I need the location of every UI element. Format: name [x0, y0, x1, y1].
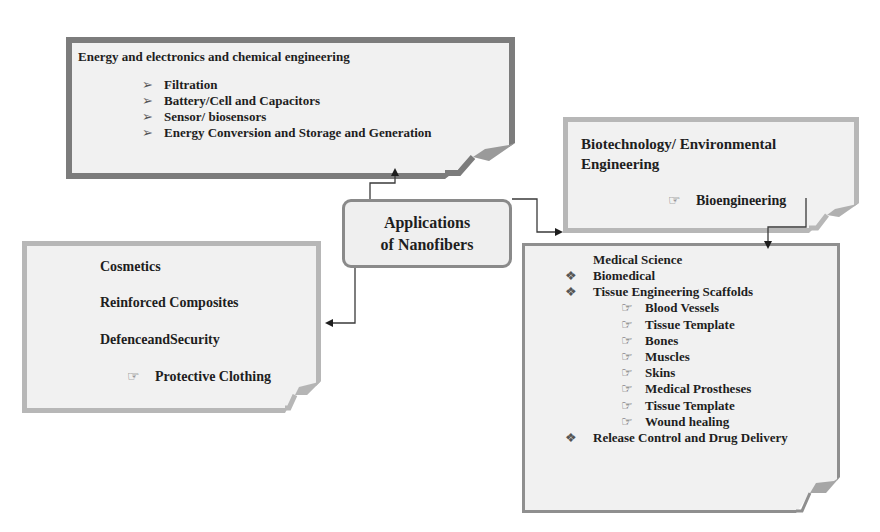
sub-list-item: ☞Blood Vessels: [565, 300, 788, 316]
arrowhead-bullet-icon: ➢: [142, 125, 164, 141]
list-item: DefenceandSecurity: [100, 332, 220, 348]
page-curl-icon: [445, 143, 515, 179]
hand-pointer-bullet-icon: ☞: [621, 381, 645, 397]
hand-pointer-bullet-icon: ☞: [127, 368, 155, 385]
arrowhead-bullet-icon: ➢: [142, 109, 164, 125]
list-item: Cosmetics: [100, 259, 161, 275]
hand-pointer-bullet-icon: ☞: [668, 192, 696, 209]
hand-pointer-bullet-icon: ☞: [621, 349, 645, 365]
sub-list-item: ☞Medical Prostheses: [565, 381, 788, 397]
list-item: ❖Biomedical: [565, 268, 788, 284]
cosmetics-composites-defence-box: Cosmetics Reinforced Composites Defencea…: [22, 241, 321, 413]
hand-pointer-bullet-icon: ☞: [621, 300, 645, 316]
hand-pointer-bullet-icon: ☞: [621, 317, 645, 333]
diamond-bullet-icon: ❖: [565, 268, 593, 284]
sub-list-item: ☞Tissue Template: [565, 317, 788, 333]
page-curl-icon: [796, 477, 840, 513]
hand-pointer-bullet-icon: ☞: [621, 365, 645, 381]
medical-box-list: ❖Biomedical ❖Tissue Engineering Scaffold…: [565, 268, 788, 446]
sub-list-item: ☞Protective Clothing: [127, 368, 271, 385]
connector-to-misc: [332, 268, 355, 323]
hand-pointer-bullet-icon: ☞: [621, 414, 645, 430]
sub-list-item: ☞Tissue Template: [565, 398, 788, 414]
biotech-environmental-box: Biotechnology/ Environmental Engineering…: [563, 117, 859, 233]
arrowhead-left-icon: [325, 319, 333, 327]
list-item: Reinforced Composites: [100, 295, 239, 311]
sub-list-item: ☞Wound healing: [565, 414, 788, 430]
list-item: ➢Energy Conversion and Storage and Gener…: [142, 125, 432, 141]
list-item: ❖Release Control and Drug Delivery: [565, 430, 788, 446]
sub-list-item: ☞Skins: [565, 365, 788, 381]
list-item: ➢Battery/Cell and Capacitors: [142, 93, 432, 109]
diamond-bullet-icon: ❖: [565, 284, 593, 300]
list-item: ➢Filtration: [142, 77, 432, 93]
list-item: ☞Bioengineering: [668, 192, 786, 209]
connector-to-biotech: [512, 199, 556, 232]
sub-list-item: ☞Muscles: [565, 349, 788, 365]
hand-pointer-bullet-icon: ☞: [621, 333, 645, 349]
list-item: ❖Tissue Engineering Scaffolds: [565, 284, 788, 300]
list-item: ➢Sensor/ biosensors: [142, 109, 432, 125]
page-curl-icon: [285, 381, 321, 413]
diamond-bullet-icon: ❖: [565, 430, 593, 446]
arrowhead-right-icon: [555, 228, 563, 236]
page-curl-icon: [809, 203, 859, 233]
medical-science-box: Medical Science ❖Biomedical ❖Tissue Engi…: [522, 243, 840, 513]
sub-list-item: ☞Bones: [565, 333, 788, 349]
arrowhead-bullet-icon: ➢: [142, 93, 164, 109]
medical-box-title: Medical Science: [593, 252, 682, 268]
energy-electronics-box: Energy and electronics and chemical engi…: [66, 37, 515, 179]
arrowhead-bullet-icon: ➢: [142, 77, 164, 93]
hand-pointer-bullet-icon: ☞: [621, 398, 645, 414]
applications-of-nanofibers-node: Applications of Nanofibers: [342, 199, 512, 268]
energy-box-title: Energy and electronics and chemical engi…: [78, 49, 350, 65]
biotech-box-title: Biotechnology/ Environmental Engineering: [581, 134, 776, 174]
energy-box-list: ➢Filtration ➢Battery/Cell and Capacitors…: [142, 77, 432, 141]
